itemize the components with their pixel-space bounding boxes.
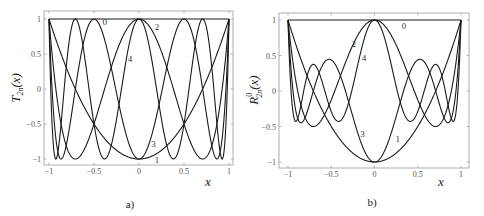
curve-n-1 xyxy=(288,20,461,162)
y-tick-label: 0.5 xyxy=(266,52,276,61)
curve-label: 0 xyxy=(402,21,407,31)
y-tick-label: −1 xyxy=(267,158,276,167)
plot-frame xyxy=(44,11,233,165)
curve-n-4 xyxy=(288,20,461,121)
x-tick-label: 1 xyxy=(459,170,463,179)
x-tick-label: −1 xyxy=(45,167,54,176)
curve-label: 4 xyxy=(362,53,367,63)
curve-n-2 xyxy=(288,20,461,127)
y-tick-label: −1 xyxy=(32,155,41,164)
x-tick-label: −1 xyxy=(284,170,293,179)
curve-label: 2 xyxy=(155,22,160,32)
y-tick-label: 0.5 xyxy=(31,50,41,59)
x-tick-label: 0.5 xyxy=(179,167,189,176)
x-tick-label: 0 xyxy=(373,170,377,179)
panel-a-chebyshev-chart: −1−0.500.51−1−0.500.5101234xT2n(x)a) xyxy=(8,11,233,211)
curve-label: 3 xyxy=(151,139,156,149)
x-axis-title: x xyxy=(437,174,444,189)
panel-b-zernike-chart: −1−0.500.51−1−0.500.5101234xR02n(x)b) xyxy=(245,13,469,209)
curve-n-1 xyxy=(49,19,229,159)
curve-label: 1 xyxy=(155,155,160,165)
plot-frame xyxy=(279,13,469,168)
y-tick-label: 0 xyxy=(37,85,41,94)
curve-n-3 xyxy=(288,20,461,162)
panel-caption: b) xyxy=(367,196,377,209)
curve-label: 3 xyxy=(360,129,365,139)
x-tick-label: 1 xyxy=(227,167,231,176)
y-tick-label: 1 xyxy=(272,16,276,25)
curve-n-4 xyxy=(49,19,229,159)
panel-caption: a) xyxy=(126,198,135,211)
y-axis-title: T2n(x) xyxy=(8,73,25,103)
curve-label: 0 xyxy=(103,17,108,27)
y-axis-title: R02n(x) xyxy=(245,75,264,105)
x-axis-title: x xyxy=(204,174,211,189)
y-tick-label: −0.5 xyxy=(261,123,276,132)
curve-n-2 xyxy=(49,19,229,159)
curve-label: 2 xyxy=(351,39,356,49)
x-tick-label: −0.5 xyxy=(324,170,339,179)
x-tick-label: −0.5 xyxy=(87,167,102,176)
curve-label: 1 xyxy=(396,134,401,144)
x-tick-label: 0 xyxy=(137,167,141,176)
curve-label: 4 xyxy=(128,54,133,64)
y-tick-label: 0 xyxy=(272,87,276,96)
x-tick-label: 0.5 xyxy=(413,170,423,179)
figure: −1−0.500.51−1−0.500.5101234xT2n(x)a) −1−… xyxy=(0,0,484,216)
y-tick-label: 1 xyxy=(37,15,41,24)
curve-n-3 xyxy=(49,19,229,159)
y-tick-label: −0.5 xyxy=(26,120,41,129)
